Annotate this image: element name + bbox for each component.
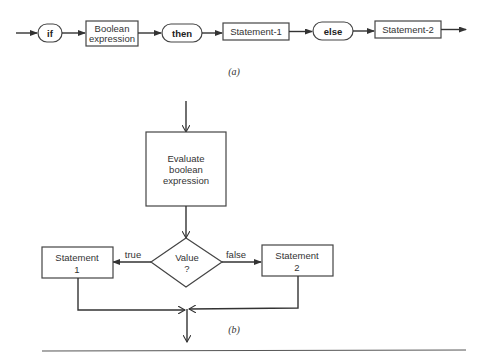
statement-1-label-1: Statement [55,252,99,263]
boolean-label-2: expression [89,33,135,44]
decision-label-2: ? [184,263,189,274]
statement-2-label: Statement-2 [382,24,434,35]
decision-label-1: Value [175,252,199,263]
if-label: if [47,28,54,39]
true-label: true [125,249,141,260]
statement-1-label: Statement-1 [230,26,282,37]
statement-2-label-2: 2 [294,262,299,273]
evaluate-label-1: Evaluate [168,153,205,164]
merge-left [78,278,185,310]
caption-a: (a) [228,66,240,78]
if-statement-diagram: if Boolean expression then Statement-1 e… [0,0,484,359]
flowchart: Evaluate boolean expression Value ? true… [42,101,333,342]
caption-b: (b) [228,324,240,336]
then-label: then [172,28,192,39]
syntax-diagram: if Boolean expression then Statement-1 e… [16,21,466,46]
false-label: false [226,249,246,260]
bottom-rule [42,350,466,351]
else-label: else [324,26,343,37]
statement-1-label-2: 1 [74,264,79,275]
evaluate-label-3: expression [163,175,209,186]
boolean-label-1: Boolean [95,23,130,34]
merge-right [189,276,298,309]
evaluate-label-2: boolean [169,164,203,175]
statement-2-label-1: Statement [275,250,319,261]
